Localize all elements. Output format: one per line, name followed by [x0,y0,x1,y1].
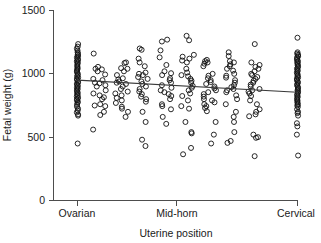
data-point [114,95,119,100]
data-point [231,114,236,119]
data-point [140,109,145,114]
data-point [160,114,165,119]
data-point [187,38,192,43]
data-point [213,119,218,124]
data-point [164,121,169,126]
data-point [169,71,174,76]
data-point [91,91,96,96]
data-point [119,93,124,98]
data-point [98,113,103,118]
data-point [180,94,185,99]
data-point [296,153,301,158]
data-point [183,119,188,124]
data-point [247,114,252,119]
fetal-weight-scatter-chart: 1500 1000 500 0 Ovarian Mid-horn Cervica… [0,0,321,243]
data-point [159,39,164,44]
chart-canvas: 1500 1000 500 0 Ovarian Mid-horn Cervica… [0,0,321,243]
data-point [165,37,170,42]
data-point [232,71,237,76]
data-point [75,141,80,146]
data-point [232,119,237,124]
data-point [142,64,147,69]
x-tick-label-ovarian: Ovarian [59,207,96,219]
data-point [157,55,162,60]
data-point [119,66,124,71]
regression-line [78,80,298,92]
data-point [169,85,174,90]
data-point [113,100,118,105]
x-axis-title: Uterine position [140,227,213,239]
data-point [257,87,262,92]
data-point [295,124,300,129]
data-point [143,119,148,124]
data-point [179,73,184,78]
data-point [257,107,262,112]
data-point [158,48,163,53]
data-point [232,130,237,135]
data-point [103,72,108,77]
data-point [164,62,169,67]
x-axis-ticks [78,201,298,206]
data-point [92,103,97,108]
data-point [123,114,128,119]
y-tick-label-500: 500 [27,131,45,143]
y-axis-tick-labels: 1500 1000 500 0 [22,4,46,206]
data-point [191,52,196,57]
data-point [179,104,184,109]
data-point [231,68,236,73]
data-point [91,51,96,56]
data-point [125,89,130,94]
data-point [103,104,108,109]
data-points-layer [74,33,300,158]
y-tick-label-0: 0 [39,194,45,206]
data-point [125,109,130,114]
data-point [168,97,173,102]
data-point [204,81,209,86]
x-axis-tick-labels: Ovarian Mid-horn Cervical [59,207,315,219]
data-point [209,141,214,146]
data-point [184,60,189,65]
x-tick-label-midhorn: Mid-horn [156,207,198,219]
data-point [233,109,238,114]
data-point [145,76,150,81]
data-point [136,75,141,80]
data-point [223,102,228,107]
data-point [211,132,216,137]
data-point [181,152,186,157]
y-tick-label-1500: 1500 [22,4,46,16]
y-tick-label-1000: 1000 [22,67,46,79]
data-point [160,73,165,78]
data-point [249,60,254,65]
data-point [187,106,192,111]
data-point [103,88,108,93]
y-axis-ticks [49,11,54,201]
x-tick-label-cervical: Cervical [277,207,315,219]
data-point [91,127,96,132]
data-point [143,144,148,149]
data-point [98,102,103,107]
data-point [125,66,130,71]
data-point [119,98,124,103]
data-point [140,137,145,142]
data-point [252,42,257,47]
regression-line-layer [78,80,298,92]
data-point [252,154,257,159]
data-point [254,102,259,107]
data-point [189,145,194,150]
data-point [143,84,148,89]
y-axis-title: Fetal weight (g) [1,69,13,141]
data-point [168,107,173,112]
data-point [295,35,300,40]
data-point [121,69,126,74]
data-point [185,98,190,103]
data-point [294,132,299,137]
data-point [103,83,108,88]
